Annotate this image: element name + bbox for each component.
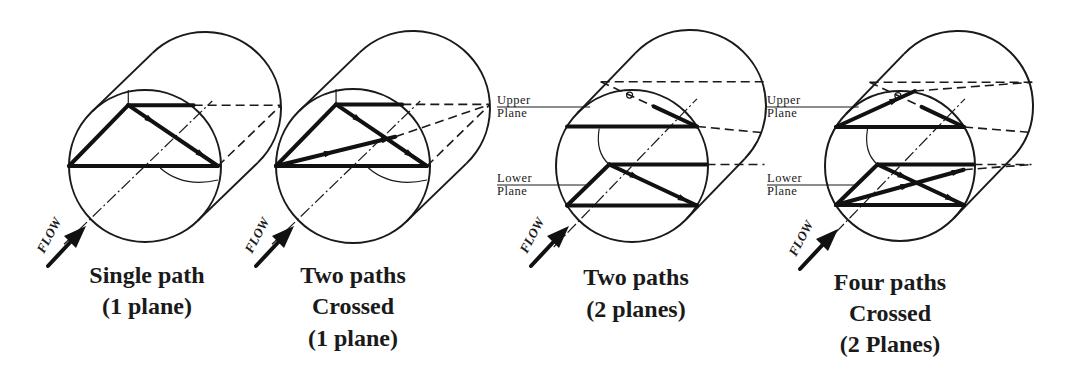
panel-caption: (2 Planes) <box>840 331 941 357</box>
panel-caption: Crossed <box>849 300 932 326</box>
hidden-path-back <box>427 104 490 166</box>
lower-plane-label: Lower <box>767 171 802 185</box>
inner-arc <box>867 129 878 165</box>
flowmeter-path-diagram: FLOWSingle path(1 plane)FLOWTwo pathsCro… <box>0 0 1072 372</box>
panel-caption: Single path <box>89 262 204 288</box>
flow-label: FLOW <box>241 214 273 256</box>
lower-plane-label: Plane <box>497 184 527 198</box>
hidden-path-crossed <box>395 104 490 136</box>
cylinder-edge-upper <box>687 159 745 219</box>
path-direction-arrow-icon <box>900 184 911 190</box>
cylinder-edge-lower <box>92 53 152 111</box>
pipe-centerline <box>64 101 212 244</box>
flow-label: FLOW <box>516 214 548 256</box>
panel-single-path: FLOWSingle path(1 plane) <box>33 32 281 319</box>
path-direction-arrow-icon <box>324 151 335 157</box>
panel-two-paths-two-planes: UpperPlaneLowerPlaneFLOWTwo paths(2 plan… <box>497 30 766 322</box>
panel-caption: Four paths <box>834 269 946 295</box>
inner-arc <box>598 128 609 164</box>
hidden-path-back <box>218 105 281 166</box>
cylinder-edge-lower <box>299 53 359 111</box>
upper-crossed-path <box>836 91 915 127</box>
cylinder-edge-lower <box>846 54 904 114</box>
cylinder-back-end <box>359 31 489 163</box>
flow-label: FLOW <box>33 214 65 256</box>
cylinder-edge-upper <box>954 158 1012 218</box>
upper-plane-label: Plane <box>767 106 797 120</box>
cylinder-edge-lower <box>577 53 635 113</box>
lower-plane-label: Plane <box>767 184 797 198</box>
inner-arc <box>368 168 427 182</box>
upper-plane-label: Upper <box>497 93 531 107</box>
inner-arc <box>160 168 218 182</box>
cylinder-edge-upper <box>198 163 258 221</box>
hidden-upper-crossed <box>915 82 1032 91</box>
acoustic-path-left <box>69 105 128 166</box>
hidden-upper-back <box>964 127 1029 132</box>
upper-plane-label: Plane <box>497 106 527 120</box>
panel-caption: (1 plane) <box>102 293 192 319</box>
hidden-upper-back <box>697 126 762 132</box>
flow-label: FLOW <box>785 217 817 259</box>
panel-four-paths-crossed: UpperPlaneLowerPlaneFLOWFour pathsCrosse… <box>767 31 1033 357</box>
panel-caption: Two paths <box>300 262 406 288</box>
pipe-centerline <box>272 101 420 244</box>
path-direction-arrow-icon <box>951 170 962 176</box>
panel-two-paths-crossed: FLOWTwo pathsCrossed(1 plane) <box>241 31 490 351</box>
cylinder-edge-upper <box>407 163 467 221</box>
lower-plane-label: Lower <box>497 171 532 185</box>
upper-plane-label: Upper <box>767 93 801 107</box>
diagram-canvas: FLOWSingle path(1 plane)FLOWTwo pathsCro… <box>0 0 1072 372</box>
acoustic-path-crossed <box>276 137 395 166</box>
panel-caption: (2 planes) <box>586 296 685 322</box>
panel-caption: (1 plane) <box>308 325 398 351</box>
panel-caption: Crossed <box>312 293 395 319</box>
panel-caption: Two paths <box>583 264 689 290</box>
